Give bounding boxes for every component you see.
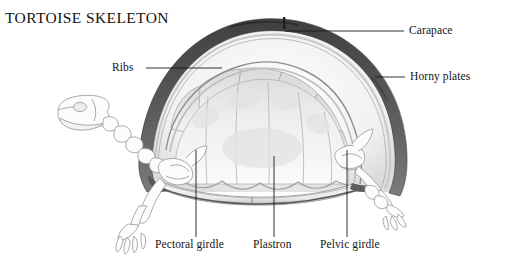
figure-canvas: TORTOISE SKELETON Ribs Carapace Horny pl… bbox=[0, 0, 508, 272]
figure-title: TORTOISE SKELETON bbox=[5, 9, 169, 27]
label-plastron: Plastron bbox=[253, 239, 292, 251]
label-ribs: Ribs bbox=[112, 62, 134, 74]
carapace-tick bbox=[283, 17, 285, 29]
tortoise-skeleton-illustration bbox=[0, 0, 508, 272]
rear-foot bbox=[387, 205, 404, 217]
label-horny-plates: Horny plates bbox=[410, 71, 470, 83]
skull-eye-socket bbox=[74, 102, 87, 111]
label-pectoral-girdle: Pectoral girdle bbox=[155, 239, 224, 251]
label-carapace: Carapace bbox=[409, 25, 453, 37]
label-pelvic-girdle: Pelvic girdle bbox=[320, 239, 380, 251]
front-claws bbox=[116, 233, 146, 254]
